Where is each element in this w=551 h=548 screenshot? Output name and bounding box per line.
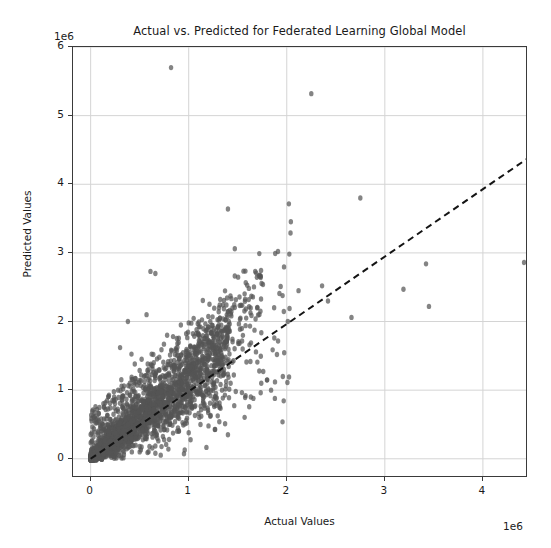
- scatter-point: [139, 357, 143, 362]
- scatter-point: [94, 445, 98, 450]
- scatter-point: [180, 386, 184, 391]
- scatter-point: [248, 305, 252, 310]
- page-title: Actual vs. Predicted for Federated Learn…: [72, 24, 527, 38]
- scatter-point: [129, 375, 133, 380]
- scatter-point: [122, 449, 126, 454]
- scatter-point: [134, 411, 138, 416]
- scatter-point: [93, 420, 97, 425]
- y-tick-mark: [68, 321, 72, 322]
- scatter-point: [175, 341, 179, 346]
- scatter-point: [185, 420, 189, 425]
- scatter-point: [221, 395, 225, 400]
- scatter-point: [136, 395, 140, 400]
- scatter-point: [208, 414, 212, 419]
- scatter-point: [152, 407, 156, 412]
- scatter-point: [227, 319, 231, 324]
- scatter-point: [114, 450, 118, 455]
- scatter-point: [214, 391, 218, 396]
- scatter-point: [227, 387, 231, 392]
- scatter-point: [240, 346, 244, 351]
- scatter-point: [130, 398, 134, 403]
- scatter-point: [241, 333, 245, 338]
- scatter-point: [158, 375, 162, 380]
- scatter-point: [197, 332, 201, 337]
- x-tick-mark: [384, 477, 385, 481]
- scatter-point: [206, 386, 210, 391]
- scatter-point: [233, 305, 237, 310]
- scatter-point: [137, 368, 141, 373]
- scatter-point: [216, 338, 220, 343]
- scatter-point: [178, 403, 182, 408]
- scatter-point: [242, 415, 246, 420]
- scatter-point: [153, 375, 157, 380]
- scatter-point: [145, 390, 149, 395]
- scatter-point: [125, 401, 129, 406]
- scatter-point: [229, 313, 233, 318]
- scatter-point: [191, 316, 195, 321]
- scatter-point: [128, 381, 132, 386]
- y-tick-label: 1: [28, 382, 64, 394]
- y-tick-label: 3: [28, 245, 64, 257]
- scatter-point: [255, 359, 259, 364]
- scatter-point: [259, 354, 263, 359]
- scatter-point: [213, 385, 217, 390]
- scatter-point: [223, 288, 227, 293]
- scatter-point: [177, 429, 181, 434]
- scatter-point: [248, 359, 252, 364]
- scatter-point: [219, 323, 223, 328]
- scatter-point: [224, 338, 228, 343]
- scatter-point: [166, 396, 170, 401]
- scatter-point: [89, 418, 93, 423]
- scatter-point: [97, 405, 101, 410]
- scatter-point: [240, 338, 244, 343]
- scatter-point: [224, 383, 228, 388]
- scatter-point: [358, 195, 362, 200]
- scatter-point: [151, 392, 155, 397]
- scatter-point: [183, 376, 187, 381]
- scatter-point: [166, 446, 170, 451]
- x-axis-label: Actual Values: [72, 515, 527, 527]
- x-tick-label: 1: [168, 484, 208, 496]
- scatter-point: [236, 341, 240, 346]
- scatter-point: [220, 329, 224, 334]
- scatter-point: [141, 390, 145, 395]
- scatter-point: [153, 271, 157, 276]
- scatter-point: [201, 344, 205, 349]
- scatter-point: [273, 396, 277, 401]
- scatter-point: [123, 417, 127, 422]
- scatter-point: [201, 392, 205, 397]
- scatter-point: [184, 347, 188, 352]
- scatter-point: [276, 249, 280, 254]
- scatter-point: [213, 344, 217, 349]
- scatter-point: [104, 416, 108, 421]
- y-tick-mark: [68, 183, 72, 184]
- scatter-point: [106, 422, 110, 427]
- scatter-point: [152, 427, 156, 432]
- scatter-point: [112, 445, 116, 450]
- scatter-point: [100, 427, 104, 432]
- scatter-point: [230, 339, 234, 344]
- scatter-point: [173, 403, 177, 408]
- scatter-point: [150, 434, 154, 439]
- scatter-point: [187, 430, 191, 435]
- scatter-point: [185, 416, 189, 421]
- scatter-point: [427, 304, 431, 309]
- scatter-point: [118, 420, 122, 425]
- scatter-point: [187, 320, 191, 325]
- scatter-point: [137, 444, 141, 449]
- scatter-point: [237, 321, 241, 326]
- scatter-point: [282, 350, 286, 355]
- y-tick-label: 2: [28, 314, 64, 326]
- scatter-point: [161, 360, 165, 365]
- scatter-point: [223, 421, 227, 426]
- scatter-point: [173, 352, 177, 357]
- scatter-point: [173, 419, 177, 424]
- scatter-point: [249, 313, 253, 318]
- scatter-point: [226, 432, 230, 437]
- scatter-point: [261, 369, 265, 374]
- scatter-point: [233, 273, 237, 278]
- scatter-point: [196, 411, 200, 416]
- scatter-point: [128, 444, 132, 449]
- scatter-point: [185, 335, 189, 340]
- scatter-point: [278, 284, 282, 289]
